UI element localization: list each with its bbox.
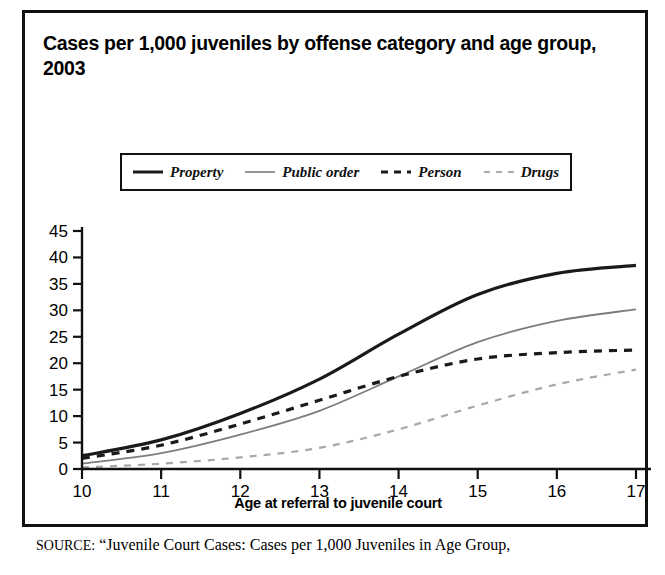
y-tick-label: 10 bbox=[49, 407, 68, 426]
series-line-person bbox=[82, 350, 636, 458]
source-text: “Juvenile Court Cases: Cases per 1,000 J… bbox=[99, 536, 510, 553]
plot-area: 051015202530354045 1011121314151617 bbox=[25, 13, 651, 530]
y-tick-label: 40 bbox=[49, 248, 68, 267]
y-tick-label: 30 bbox=[49, 301, 68, 320]
source-note: SOURCE: “Juvenile Court Cases: Cases per… bbox=[36, 536, 656, 554]
x-axis-title: Age at referral to juvenile court bbox=[25, 495, 651, 511]
source-kicker: SOURCE: bbox=[36, 538, 95, 553]
y-tick-label: 45 bbox=[49, 222, 68, 241]
y-tick-label: 15 bbox=[49, 381, 68, 400]
y-tick-label: 25 bbox=[49, 328, 68, 347]
plot-svg: 051015202530354045 1011121314151617 bbox=[25, 13, 651, 530]
y-axis-ticks: 051015202530354045 bbox=[49, 222, 82, 479]
y-tick-label: 35 bbox=[49, 275, 68, 294]
y-tick-label: 5 bbox=[59, 434, 68, 453]
series-line-property bbox=[82, 265, 636, 455]
y-tick-label: 20 bbox=[49, 354, 68, 373]
series-layer bbox=[82, 265, 636, 467]
y-tick-label: 0 bbox=[59, 460, 68, 479]
figure-frame: Cases per 1,000 juveniles by offense cat… bbox=[22, 10, 648, 527]
